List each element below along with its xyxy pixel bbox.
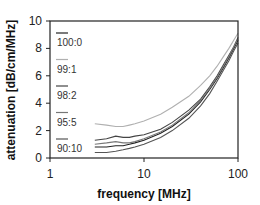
series-line-95-5 [95, 39, 238, 145]
plot-area [95, 33, 238, 152]
y-axis-label: attenuation [dB/cm/MHz] [4, 20, 18, 161]
legend-label: 95:5 [57, 117, 77, 128]
legend-label: 98:2 [57, 90, 77, 101]
x-tick-label: 1 [47, 167, 54, 181]
x-tick-label: 10 [137, 167, 151, 181]
legend: 100:099:198:295:590:10 [56, 33, 82, 154]
y-tick-label: 10 [29, 14, 43, 28]
y-tick-label: 8 [35, 41, 42, 55]
legend-label: 90:10 [57, 143, 82, 154]
series-line-98-2 [95, 37, 238, 140]
legend-label: 100:0 [57, 37, 82, 48]
attenuation-chart: 0246810110100 100:099:198:295:590:10 fre… [0, 0, 260, 205]
y-tick-label: 0 [35, 151, 42, 165]
y-tick-label: 4 [35, 96, 42, 110]
y-tick-label: 2 [35, 124, 42, 138]
x-axis-label: frequency [MHz] [97, 187, 190, 201]
y-tick-label: 6 [35, 69, 42, 83]
legend-label: 99:1 [57, 64, 77, 75]
x-tick-label: 100 [228, 167, 248, 181]
series-line-100-0 [95, 40, 238, 147]
